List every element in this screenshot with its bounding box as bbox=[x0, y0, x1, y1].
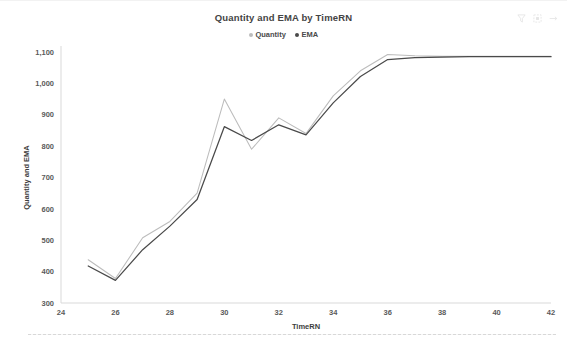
x-tick-label: 28 bbox=[166, 308, 174, 317]
x-tick-label: 36 bbox=[383, 308, 391, 317]
series-group bbox=[88, 55, 551, 281]
y-tick-label: 600 bbox=[41, 205, 54, 214]
x-tick-label: 30 bbox=[220, 308, 228, 317]
y-tick-label: 300 bbox=[41, 299, 54, 308]
y-axis: 3004005006007008009001,0001,100 bbox=[35, 46, 61, 308]
plot-area: 3004005006007008009001,0001,100 24262830… bbox=[0, 0, 567, 344]
series-line-ema bbox=[88, 57, 551, 281]
series-line-quantity bbox=[88, 55, 551, 279]
x-axis-title: TimeRN bbox=[292, 322, 320, 331]
y-tick-label: 800 bbox=[41, 142, 54, 151]
x-tick-label: 32 bbox=[275, 308, 283, 317]
x-axis: 24262830323436384042 bbox=[57, 303, 555, 317]
plot-svg: 3004005006007008009001,0001,100 24262830… bbox=[0, 0, 567, 344]
y-tick-label: 900 bbox=[41, 110, 54, 119]
x-tick-label: 26 bbox=[111, 308, 119, 317]
x-tick-label: 40 bbox=[492, 308, 500, 317]
y-tick-label: 1,100 bbox=[35, 48, 54, 57]
x-tick-label: 42 bbox=[547, 308, 555, 317]
chart-visual: Quantity and EMA by TimeRN Quantity bbox=[0, 0, 567, 344]
y-tick-label: 1,000 bbox=[35, 79, 54, 88]
y-tick-label: 400 bbox=[41, 267, 54, 276]
x-tick-label: 24 bbox=[57, 308, 66, 317]
y-tick-label: 700 bbox=[41, 173, 54, 182]
y-axis-title: Quantity and EMA bbox=[22, 145, 31, 210]
x-tick-label: 34 bbox=[329, 308, 338, 317]
y-tick-label: 500 bbox=[41, 236, 54, 245]
x-tick-label: 38 bbox=[438, 308, 446, 317]
